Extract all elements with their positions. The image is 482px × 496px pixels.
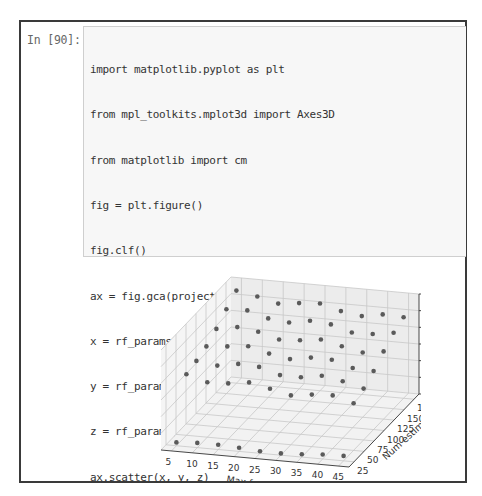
data-point bbox=[204, 344, 209, 349]
data-point bbox=[289, 393, 294, 398]
data-point bbox=[277, 337, 282, 342]
data-point bbox=[256, 329, 261, 334]
data-point bbox=[330, 358, 335, 363]
data-point bbox=[320, 452, 325, 457]
data-point bbox=[381, 349, 386, 354]
data-point bbox=[371, 369, 376, 374]
x-tick-label: 5 bbox=[165, 457, 171, 467]
data-point bbox=[247, 380, 252, 385]
data-point bbox=[257, 365, 262, 370]
data-point bbox=[234, 288, 239, 293]
data-point bbox=[237, 446, 242, 451]
axis-panes bbox=[161, 277, 419, 467]
data-point bbox=[340, 344, 345, 349]
data-point bbox=[350, 366, 355, 371]
data-point bbox=[297, 301, 302, 306]
data-point bbox=[330, 393, 335, 398]
y-tick-label: 25 bbox=[357, 466, 368, 476]
cell-prompt: In [90]: bbox=[27, 33, 81, 47]
data-point bbox=[300, 452, 305, 457]
code-editor[interactable]: import matplotlib.pyplot as plt from mpl… bbox=[83, 26, 466, 257]
data-point bbox=[361, 386, 366, 391]
data-point bbox=[351, 401, 356, 406]
data-point bbox=[174, 440, 179, 445]
data-point bbox=[226, 381, 231, 386]
data-point bbox=[370, 332, 375, 337]
code-line: fig = plt.figure() bbox=[90, 198, 335, 213]
x-tick-label: 40 bbox=[312, 470, 324, 480]
data-point bbox=[401, 315, 406, 320]
data-point bbox=[245, 308, 250, 313]
data-point bbox=[380, 312, 385, 317]
code-line: from matplotlib import cm bbox=[90, 153, 335, 168]
y-tick-label: 175 bbox=[417, 403, 421, 413]
data-point bbox=[309, 355, 314, 360]
data-point bbox=[360, 314, 365, 319]
code-line: from mpl_toolkits.mplot3d import Axes3D bbox=[90, 107, 335, 122]
y-tick-label: 50 bbox=[367, 455, 379, 465]
data-point bbox=[215, 363, 220, 368]
data-point bbox=[308, 318, 313, 323]
x-tick-label: 45 bbox=[333, 472, 344, 482]
data-point bbox=[235, 325, 240, 330]
data-point bbox=[288, 357, 293, 362]
data-point bbox=[310, 392, 315, 397]
data-point bbox=[298, 338, 303, 343]
data-point bbox=[184, 372, 189, 377]
data-point bbox=[224, 307, 229, 312]
data-point bbox=[276, 301, 281, 306]
x-tick-label: 25 bbox=[249, 465, 260, 475]
data-point bbox=[279, 451, 284, 456]
data-point bbox=[236, 362, 241, 367]
data-point bbox=[255, 294, 260, 299]
data-point bbox=[194, 359, 199, 364]
data-point bbox=[299, 375, 304, 380]
plot-canvas: 0.200.250.300.350.400.450.50510152025303… bbox=[101, 262, 421, 482]
data-point bbox=[287, 320, 292, 325]
data-point bbox=[266, 316, 271, 321]
x-tick-label: 15 bbox=[207, 461, 218, 471]
data-point bbox=[216, 442, 221, 447]
notebook-cell: In [90]: import matplotlib.pyplot as plt… bbox=[19, 20, 467, 483]
data-point bbox=[258, 449, 263, 454]
data-point bbox=[318, 301, 323, 306]
data-point bbox=[278, 373, 283, 378]
data-point bbox=[225, 344, 230, 349]
data-point bbox=[360, 350, 365, 355]
data-point bbox=[214, 327, 219, 332]
data-point bbox=[246, 344, 251, 349]
data-point bbox=[341, 454, 346, 459]
data-point bbox=[320, 374, 325, 379]
data-point bbox=[205, 380, 210, 385]
data-point bbox=[339, 309, 344, 314]
data-point bbox=[268, 386, 273, 391]
data-point bbox=[329, 322, 334, 327]
data-point bbox=[267, 351, 272, 356]
x-tick-label: 35 bbox=[291, 468, 302, 478]
x-tick-label: 20 bbox=[228, 463, 240, 473]
code-line: fig.clf() bbox=[90, 243, 335, 258]
scatter-3d-plot: 0.200.250.300.350.400.450.50510152025303… bbox=[101, 262, 421, 482]
data-point bbox=[195, 441, 200, 446]
data-point bbox=[319, 337, 324, 342]
x-tick-label: 10 bbox=[186, 459, 198, 469]
x-tick-label: 30 bbox=[270, 466, 282, 476]
data-point bbox=[391, 331, 396, 336]
data-point bbox=[340, 379, 345, 384]
code-line: import matplotlib.pyplot as plt bbox=[90, 62, 335, 77]
data-point bbox=[350, 330, 355, 335]
